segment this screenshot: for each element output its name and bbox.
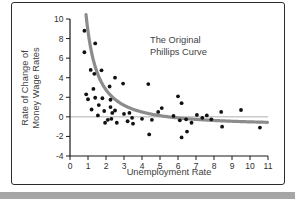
data-point bbox=[190, 121, 194, 125]
data-point bbox=[258, 126, 262, 130]
data-point bbox=[86, 97, 90, 101]
data-point bbox=[219, 110, 223, 114]
chart-title: The Original Phillips Curve bbox=[150, 35, 207, 58]
data-point bbox=[180, 101, 184, 105]
data-point bbox=[140, 117, 144, 121]
y-tick-label: 2 bbox=[59, 92, 64, 102]
data-point bbox=[180, 136, 184, 140]
data-point bbox=[97, 103, 101, 107]
figure: 1086420-2-401234567891011 The Original P… bbox=[0, 0, 295, 204]
data-point bbox=[106, 118, 110, 122]
data-point bbox=[126, 119, 130, 123]
data-point bbox=[109, 105, 113, 109]
data-point bbox=[184, 117, 188, 121]
data-point bbox=[108, 85, 112, 89]
chart-title-line1: The Original bbox=[150, 35, 207, 47]
data-point bbox=[83, 29, 87, 33]
y-tick-label: -2 bbox=[56, 131, 64, 141]
y-tick-label: 0 bbox=[59, 112, 64, 122]
data-point bbox=[195, 113, 199, 117]
data-point bbox=[103, 121, 107, 125]
data-point bbox=[209, 117, 213, 121]
data-point bbox=[127, 111, 131, 115]
data-point bbox=[110, 117, 114, 121]
data-point bbox=[185, 130, 189, 134]
y-tick-label: 4 bbox=[59, 73, 64, 83]
data-point bbox=[150, 118, 154, 122]
data-point bbox=[146, 82, 150, 86]
y-axis-label-line2: Money Wage Rates bbox=[31, 18, 42, 158]
data-point bbox=[147, 133, 151, 137]
data-point bbox=[115, 121, 119, 125]
data-point bbox=[102, 109, 106, 113]
data-point bbox=[172, 114, 176, 118]
page-bottom-strip bbox=[0, 192, 295, 199]
data-point bbox=[90, 108, 94, 112]
y-tick-label: 8 bbox=[59, 34, 64, 44]
data-point bbox=[93, 96, 97, 100]
data-point bbox=[239, 108, 243, 112]
data-point bbox=[205, 113, 209, 117]
data-point bbox=[84, 92, 88, 96]
data-point bbox=[113, 76, 117, 80]
data-point bbox=[200, 116, 204, 120]
data-point bbox=[220, 125, 224, 129]
y-axis-label: Rate of Change of Money Wage Rates bbox=[20, 18, 42, 158]
y-tick-label: 10 bbox=[54, 14, 64, 24]
data-point bbox=[92, 87, 96, 91]
data-point bbox=[96, 113, 100, 117]
data-point bbox=[92, 72, 96, 76]
data-point bbox=[113, 109, 117, 113]
data-point bbox=[176, 94, 180, 98]
data-point bbox=[89, 68, 93, 72]
data-point bbox=[122, 112, 126, 116]
data-point bbox=[83, 50, 87, 54]
y-tick-label: 6 bbox=[59, 53, 64, 63]
data-point bbox=[93, 42, 97, 46]
data-point bbox=[121, 82, 125, 86]
data-point bbox=[101, 96, 105, 100]
data-point bbox=[178, 118, 182, 122]
data-point bbox=[156, 110, 160, 114]
data-point bbox=[131, 122, 135, 126]
data-point bbox=[109, 98, 113, 102]
data-point bbox=[100, 68, 104, 72]
y-tick-label: -4 bbox=[56, 151, 64, 161]
x-axis-label: Unemployment Rate bbox=[70, 167, 268, 177]
y-axis-label-line1: Rate of Change of bbox=[20, 18, 31, 158]
fitted-phillips-curve bbox=[86, 15, 267, 123]
chart-title-line2: Phillips Curve bbox=[150, 47, 207, 59]
data-point bbox=[160, 106, 164, 110]
data-point bbox=[130, 116, 134, 120]
